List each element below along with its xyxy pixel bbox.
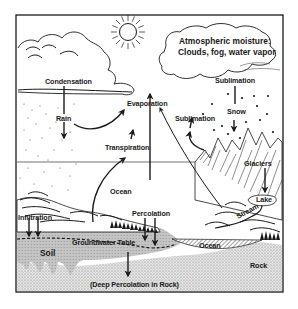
percolation-label: Percolation <box>132 209 170 218</box>
water-cycle-diagram: Atmospheric moisture: Clouds, fog, water… <box>0 0 298 309</box>
lake-label: Lake <box>256 195 272 204</box>
atmospheric-moisture-label: Atmospheric moisture: <box>179 36 271 46</box>
groundwater-table-label: Groundwater Table <box>72 238 135 247</box>
ocean-small-label: Ocean <box>199 241 220 250</box>
glaciers-label: Glaciers <box>244 159 272 168</box>
rock-label: Rock <box>250 261 267 270</box>
condensation-label: Condensation <box>45 77 92 86</box>
sublimation-top-label: Sublimation <box>215 76 255 85</box>
ocean-main-label: Ocean <box>110 187 131 196</box>
evaporation-label: Evaporation <box>127 99 167 108</box>
atmospheric-detail-label: Clouds, fog, water vapor <box>178 47 276 57</box>
deep-percolation-label: (Deep Percolation in Rock) <box>90 280 180 289</box>
soil-label: Soil <box>40 248 55 258</box>
sublimation-label: Sublimation <box>175 114 215 123</box>
rain-label: Rain <box>56 114 71 123</box>
infiltration-label: Infiltration <box>18 213 52 222</box>
transpiration-label: Transpiration <box>105 143 149 152</box>
sun-icon <box>111 15 145 49</box>
snow-label: Snow <box>227 107 246 116</box>
